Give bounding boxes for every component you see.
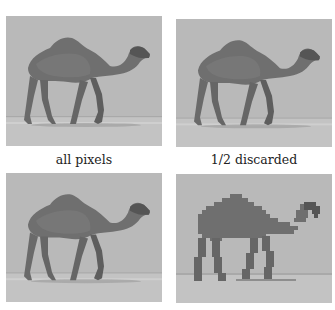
camel-image-pixelated [176, 174, 332, 303]
image-all-pixels [6, 16, 162, 146]
caption-half-discarded: 1/2 discarded [176, 153, 332, 167]
caption-all-pixels: all pixels [6, 153, 162, 167]
camel-image [176, 19, 332, 147]
image-bottom-left [6, 173, 162, 302]
image-half-discarded [176, 19, 332, 147]
image-pixelated [176, 174, 332, 303]
camel-image [6, 16, 162, 146]
camel-image [6, 173, 162, 302]
